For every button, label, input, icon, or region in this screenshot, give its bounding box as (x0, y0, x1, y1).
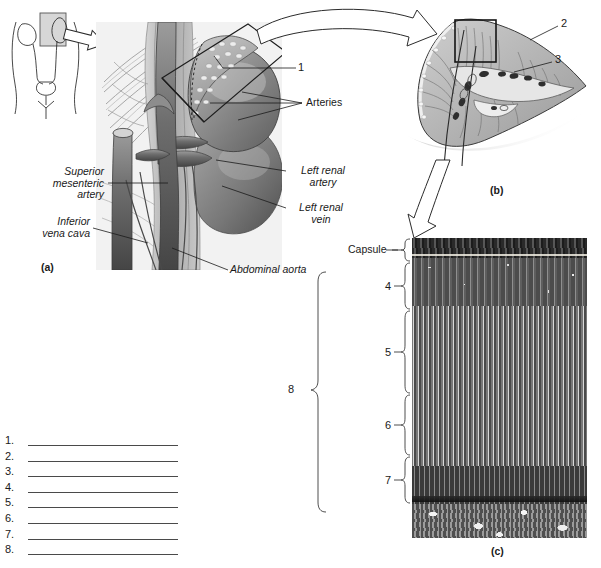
answer-number: 8. (5, 543, 14, 555)
panel-a-label-left-renal-vein: Left renal vein (292, 202, 350, 225)
panel-c-label-capsule: Capsule (348, 244, 387, 256)
answer-row[interactable]: 4. (0, 481, 200, 497)
panel-b-leader-lines (470, 10, 590, 80)
answer-blank-line[interactable] (28, 445, 178, 446)
panel-b-label-2: 2 (561, 18, 567, 30)
panel-a-label-left-renal-artery: Left renal artery (292, 165, 354, 188)
bracket-8-label: 8 (288, 384, 294, 396)
answer-blank-line[interactable] (28, 476, 178, 477)
panel-c-caption: (c) (491, 546, 504, 558)
answer-number: 3. (5, 465, 14, 477)
answer-row[interactable]: 6. (0, 512, 200, 528)
panel-a-label-arteries: Arteries (306, 97, 342, 109)
answer-blank-line[interactable] (28, 492, 178, 493)
answer-blank-line[interactable] (28, 507, 178, 508)
answer-number: 1. (5, 434, 14, 446)
answer-number: 2. (5, 450, 14, 462)
answer-list: 1. 2. 3. 4. 5. 6. 7. 8. (0, 434, 200, 559)
answer-row[interactable]: 2. (0, 450, 200, 466)
panel-c-label-6: 6 (385, 420, 391, 432)
answer-number: 4. (5, 481, 14, 493)
answer-row[interactable]: 7. (0, 528, 200, 544)
answer-blank-line[interactable] (28, 554, 178, 555)
bracket-8 (300, 270, 334, 515)
panel-c-capsule-leader (386, 246, 400, 256)
panel-a-label-abdominal-aorta: Abdominal aorta (230, 264, 306, 276)
panel-c-label-7: 7 (385, 475, 391, 487)
answer-row[interactable]: 8. (0, 543, 200, 559)
answer-row[interactable]: 3. (0, 465, 200, 481)
panel-c-label-5: 5 (385, 347, 391, 359)
panel-a-label-inferior-vena-cava: Inferior vena cava (22, 216, 90, 239)
answer-number: 5. (5, 496, 14, 508)
answer-number: 7. (5, 528, 14, 540)
answer-blank-line[interactable] (28, 523, 178, 524)
answer-number: 6. (5, 512, 14, 524)
magnify-arrow-b-to-c (408, 160, 468, 240)
answer-row[interactable]: 1. (0, 434, 200, 450)
panel-c-label-4: 4 (385, 281, 391, 293)
panel-a-caption: (a) (41, 262, 54, 274)
panel-b-label-3: 3 (555, 54, 561, 66)
answer-blank-line[interactable] (28, 461, 178, 462)
answer-blank-line[interactable] (28, 539, 178, 540)
answer-row[interactable]: 5. (0, 496, 200, 512)
kidney-histology-micrograph (412, 238, 587, 538)
panel-b-caption: (b) (490, 185, 503, 197)
panel-a-label-superior-mesenteric-artery: Superior mesenteric artery (32, 166, 104, 201)
